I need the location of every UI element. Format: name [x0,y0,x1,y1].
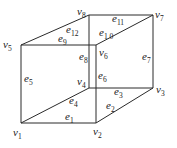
vertex-label-subscript: 4 [82,81,86,90]
edge-label-e12: e12 [66,23,79,38]
vertex-label-v4: v4 [77,75,86,90]
edge-label-subscript: 6 [103,75,107,84]
edge-label-e8: e8 [79,50,88,65]
edge-label-e4: e4 [69,94,78,109]
edge-label-subscript: 11 [117,18,124,27]
vertex-label-subscript: 7 [160,14,164,23]
edge-e2 [96,88,153,123]
edge-label-e2: e2 [106,99,115,114]
vertex-label-subscript: 2 [98,131,102,140]
edge-label-subscript: 1 [70,116,74,125]
vertex-label-v7: v7 [155,8,164,23]
vertex-label-v2: v2 [93,125,102,140]
edge-label-e5: e5 [24,72,33,87]
edge-label-subscript: 1 0 [104,32,114,41]
vertex-label-v3: v3 [156,83,165,98]
edge-label-subscript: 9 [63,38,67,47]
edge-label-subscript: 8 [84,56,88,65]
edge-label-subscript: 4 [74,100,78,109]
edge-label-e10: e1 0 [99,26,114,41]
vertex-label-subscript: 3 [161,89,165,98]
vertex-label-subscript: 5 [8,44,12,53]
vertex-label-v1: v1 [13,126,22,141]
vertex-label-v8: v8 [77,5,86,20]
edge-e12 [21,15,89,45]
edge-label-e6: e6 [98,69,107,84]
edge-labels-group: e1e2e3e4e5e6e7e8e9e1 0e11e12 [24,12,151,125]
vertex-label-subscript: 8 [82,11,86,20]
vertex-label-subscript: 1 [18,132,22,141]
cube-graph-canvas: v1v2v3v4v5v6v7v8 e1e2e3e4e5e6e7e8e9e1 0e… [0,0,177,148]
edge-label-subscript: 7 [147,56,151,65]
vertex-label-v6: v6 [99,46,108,61]
edge-label-subscript: 5 [29,78,33,87]
edge-label-subscript: 3 [119,91,123,100]
edge-label-e3: e3 [114,85,123,100]
edge-label-subscript: 12 [71,29,79,38]
cube-graph-diagram: v1v2v3v4v5v6v7v8 e1e2e3e4e5e6e7e8e9e1 0e… [0,0,177,148]
edge-e4 [21,88,89,123]
edge-label-e11: e11 [112,12,124,27]
edge-label-e7: e7 [142,50,151,65]
vertex-label-subscript: 6 [104,52,108,61]
edge-label-subscript: 2 [111,105,115,114]
edges-group [21,15,153,123]
vertex-label-v5: v5 [3,38,12,53]
